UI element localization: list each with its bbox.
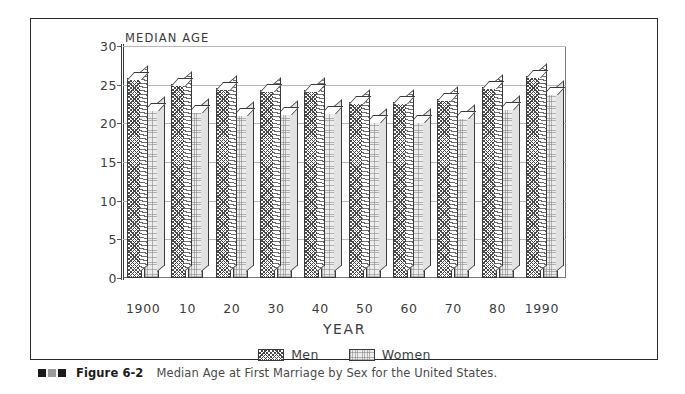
- bar-side-face: [362, 89, 370, 272]
- legend-swatch-women: [349, 349, 375, 361]
- y-tick: 20: [31, 116, 117, 130]
- bars-layer: [123, 46, 566, 278]
- bar-group: [526, 46, 565, 278]
- bar-men-10: [171, 84, 186, 278]
- y-tick-label: 5: [39, 232, 117, 247]
- bar-group: [171, 46, 210, 278]
- y-tick: 5: [31, 232, 117, 246]
- y-tick-label: 30: [39, 39, 117, 54]
- y-tick: 15: [31, 155, 117, 169]
- bar-side-face: [140, 65, 148, 272]
- legend-swatch-men: [258, 349, 284, 361]
- x-tick-label: 1990: [512, 301, 572, 316]
- bar-men-80: [482, 87, 497, 278]
- bar-side-face: [229, 75, 237, 272]
- y-tick-mark: [117, 123, 122, 124]
- bar-men-30: [260, 90, 275, 278]
- y-tick-mark: [117, 85, 122, 86]
- y-tick-mark: [117, 162, 122, 163]
- bar-side-face: [450, 86, 458, 272]
- bar-side-face: [512, 95, 520, 272]
- legend-entry-women: Women: [349, 347, 431, 362]
- caption-square-gray: [48, 369, 56, 377]
- y-tick-mark: [117, 239, 122, 240]
- bar-men-20: [216, 88, 231, 278]
- bar-side-face: [246, 101, 254, 272]
- bar-group: [127, 46, 166, 278]
- y-tick-label: 0: [39, 271, 117, 286]
- chart-region: MEDIAN AGE 051015202530 1900102030405060…: [31, 19, 659, 361]
- figure-caption: Figure 6-2 Median Age at First Marriage …: [38, 366, 497, 380]
- y-axis-title: MEDIAN AGE: [125, 31, 209, 45]
- y-tick: 25: [31, 78, 117, 92]
- bar-group: [349, 46, 388, 278]
- bar-men-1900: [127, 78, 142, 278]
- bar-men-1990: [526, 76, 541, 278]
- x-axis-title: YEAR: [123, 321, 566, 337]
- y-tick-mark: [117, 46, 122, 47]
- bar-side-face: [467, 104, 475, 272]
- bar-group: [482, 46, 521, 278]
- bar-side-face: [423, 108, 431, 272]
- caption-square-dark: [58, 369, 66, 377]
- y-tick: 30: [31, 39, 117, 53]
- chart-legend: MenWomen: [123, 347, 566, 362]
- bar-side-face: [334, 99, 342, 272]
- y-tick: 10: [31, 194, 117, 208]
- y-tick: 0: [31, 271, 117, 285]
- bar-men-60: [393, 102, 408, 278]
- bar-side-face: [539, 63, 547, 272]
- bar-side-face: [157, 96, 165, 272]
- legend-entry-men: Men: [258, 347, 319, 362]
- bar-side-face: [273, 77, 281, 272]
- y-tick-label: 20: [39, 116, 117, 131]
- bar-group: [260, 46, 299, 278]
- bar-side-face: [290, 101, 298, 272]
- y-tick-label: 15: [39, 155, 117, 170]
- bar-side-face: [184, 71, 192, 272]
- bar-group: [304, 46, 343, 278]
- caption-description: Median Age at First Marriage by Sex for …: [156, 366, 497, 380]
- figure-frame: MEDIAN AGE 051015202530 1900102030405060…: [30, 18, 658, 360]
- caption-figure-number: Figure 6-2: [76, 366, 143, 380]
- bar-side-face: [317, 77, 325, 272]
- y-tick-mark: [117, 278, 122, 279]
- legend-label: Women: [382, 347, 431, 362]
- bar-side-face: [495, 74, 503, 272]
- bar-side-face: [379, 108, 387, 272]
- legend-label: Men: [291, 347, 319, 362]
- bar-side-face: [406, 89, 414, 272]
- bar-group: [437, 46, 476, 278]
- y-tick-mark: [117, 201, 122, 202]
- caption-marker-squares: [38, 369, 66, 377]
- bar-group: [393, 46, 432, 278]
- bar-men-70: [437, 99, 452, 278]
- bar-men-40: [304, 90, 319, 278]
- bar-men-50: [349, 102, 364, 278]
- y-tick-label: 10: [39, 194, 117, 209]
- y-tick-label: 25: [39, 78, 117, 93]
- caption-square-dark: [38, 369, 46, 377]
- bar-side-face: [201, 98, 209, 272]
- bar-side-face: [556, 80, 564, 272]
- bar-group: [216, 46, 255, 278]
